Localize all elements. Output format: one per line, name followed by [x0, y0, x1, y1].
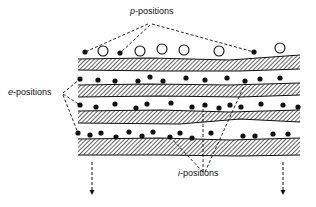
p-positions-label: p-positions [130, 6, 174, 16]
p-position-dot [117, 50, 122, 55]
filled-dot [112, 101, 117, 106]
filled-dot [242, 78, 247, 83]
filled-dot [160, 78, 165, 83]
filled-dot [126, 129, 131, 134]
filled-dot [133, 105, 138, 110]
arrow-down-icon [281, 190, 286, 195]
filled-dot [258, 101, 263, 106]
filled-dot [208, 130, 213, 135]
filled-dot [113, 134, 118, 139]
filled-dot [202, 102, 207, 107]
dashed-leader-line [63, 94, 80, 105]
filled-dot [238, 104, 243, 109]
filled-dot [257, 76, 262, 81]
filled-dot [98, 130, 103, 135]
filled-dot [139, 133, 144, 138]
filled-dot [224, 75, 229, 80]
diagram-canvas [0, 0, 316, 207]
hatched-layers [78, 55, 300, 156]
open-circle-icon [214, 46, 224, 56]
filled-dot [77, 76, 82, 81]
filled-dot [167, 134, 172, 139]
e-positions-label: e-positions [8, 87, 52, 97]
open-circle-icon [157, 44, 167, 54]
hatched-layer [78, 138, 300, 156]
filled-dot [189, 135, 194, 140]
p-position-dot [82, 49, 87, 54]
filled-dot [216, 105, 221, 110]
filled-dot [135, 78, 140, 83]
p-position-dot [251, 49, 256, 54]
downward-arrows [90, 162, 286, 195]
filled-dot [227, 102, 232, 107]
filled-dot [77, 102, 82, 107]
filled-dot [93, 104, 98, 109]
filled-dot [150, 129, 155, 134]
filled-dot [295, 104, 300, 109]
filled-dot [144, 101, 149, 106]
filled-dot [270, 131, 275, 136]
layer-bottom-edge [78, 155, 300, 156]
filled-dot [147, 74, 152, 79]
filled-dot [240, 133, 245, 138]
filled-dot [252, 133, 257, 138]
filled-dot [183, 75, 188, 80]
dashed-leader-line [63, 95, 78, 133]
filled-dot [280, 102, 285, 107]
dashed-leader-line [63, 79, 80, 93]
filled-dot [112, 78, 117, 83]
filled-dot [202, 77, 207, 82]
filled-dot [285, 131, 290, 136]
open-circle-icon [135, 46, 145, 56]
filled-dot [189, 104, 194, 109]
dashed-leader-line [205, 86, 244, 172]
filled-dot [177, 130, 182, 135]
arrow-down-icon [90, 190, 95, 195]
open-circle-icon [179, 45, 189, 55]
filled-dot [168, 100, 173, 105]
filled-dot [87, 132, 92, 137]
filled-dot [75, 130, 80, 135]
filled-dot [277, 75, 282, 80]
hatched-layer [78, 110, 300, 124]
filled-dot [95, 77, 100, 82]
open-circle-icon [275, 43, 285, 53]
layered-structure-diagram: p-positions e-positions i-positions [0, 0, 316, 207]
open-circle-icon [98, 46, 108, 56]
i-positions-label: i-positions [178, 168, 219, 178]
